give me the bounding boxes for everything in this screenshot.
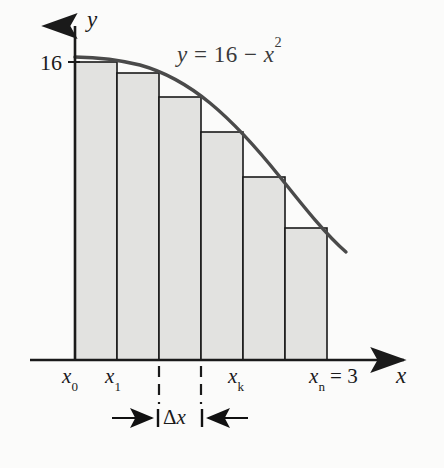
delta-variable: x: [177, 405, 186, 429]
equation-exponent: 2: [274, 34, 282, 50]
partition-label-x0: x0: [62, 366, 78, 390]
partition-label-x1: x1: [105, 366, 121, 390]
partition-label-xn-base: x: [309, 364, 318, 388]
partition-label-xk-base: x: [228, 364, 237, 388]
x-axis-label: x: [396, 364, 406, 387]
riemann-rectangle: [75, 62, 117, 360]
y-axis-label: y: [87, 8, 97, 31]
partition-label-xn: xn = 3: [309, 366, 358, 390]
partition-label-x0-subscript: 0: [72, 379, 79, 394]
delta-symbol: Δ: [163, 405, 177, 429]
delta-x-guides: [159, 366, 201, 404]
equation-constant: 16: [214, 42, 238, 67]
riemann-rectangle: [201, 132, 243, 360]
partition-label-xn-value: = 3: [325, 364, 358, 388]
riemann-rectangle: [243, 177, 285, 360]
delta-x-label: Δx: [163, 407, 186, 428]
riemann-rectangles: [75, 62, 327, 360]
equation-variable: x: [264, 42, 275, 67]
partition-label-x0-base: x: [62, 364, 71, 388]
equation-minus: −: [244, 42, 257, 67]
y-axis-tick-label: 16: [40, 52, 62, 74]
equation-y: y: [177, 42, 188, 67]
riemann-rectangle: [285, 228, 327, 360]
figure-canvas: [0, 0, 444, 468]
riemann-rectangle: [159, 97, 201, 360]
partition-label-x1-base: x: [105, 364, 114, 388]
partition-label-xk-subscript: k: [238, 379, 245, 394]
partition-label-x1-subscript: 1: [115, 379, 122, 394]
partition-label-xn-subscript: n: [319, 379, 326, 394]
partition-label-xk: xk: [228, 366, 244, 390]
riemann-rectangle: [117, 73, 159, 360]
equation-equals: =: [194, 42, 207, 67]
riemann-sum-figure: 16 y x y = 16 − x2 x0 x1 xk xn = 3 Δx: [0, 0, 444, 468]
curve-equation-label: y = 16 − x2: [177, 41, 282, 66]
